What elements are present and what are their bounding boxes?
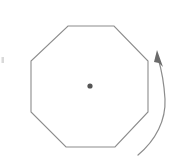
left-edge-speck bbox=[2, 57, 5, 63]
figure-canvas: Regular octagon with center point and ro… bbox=[0, 0, 178, 165]
octagon-rotation-diagram: Regular octagon with center point and ro… bbox=[0, 0, 178, 165]
center-of-rotation-dot bbox=[87, 83, 92, 88]
